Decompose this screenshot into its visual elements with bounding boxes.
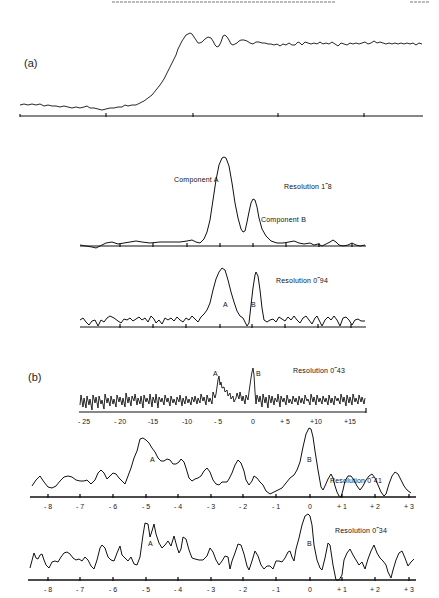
tick-label: - 7 xyxy=(76,503,84,510)
tick-label: - 7 xyxy=(76,586,84,593)
panel-res-0-43-axis xyxy=(79,408,366,413)
peak-b-label: B xyxy=(251,301,256,308)
tick-label: - 1 xyxy=(272,503,280,510)
panel-res-0-43-curve xyxy=(80,368,365,410)
panel-res-0-41-axis xyxy=(30,494,416,498)
peak-a-label: A xyxy=(223,301,228,308)
tick-label: - 2 xyxy=(239,503,247,510)
panel-a-curve xyxy=(20,33,422,110)
peak-a-label: A xyxy=(150,456,155,463)
panel-a-axis xyxy=(20,113,423,117)
peak-b-label: B xyxy=(307,540,312,547)
tick-label: - 1 xyxy=(272,586,280,593)
tick-label: +15 xyxy=(344,418,356,425)
component-a-label: Component A xyxy=(174,176,219,183)
resolution-0-94-label: Resolution 0˝94 xyxy=(276,277,328,284)
panel-b-label: (b) xyxy=(28,371,41,383)
tick-label: + 2 xyxy=(370,586,380,593)
peak-b-label: B xyxy=(307,456,312,463)
tick-label: - 4 xyxy=(174,586,182,593)
tick-label: 0 xyxy=(251,418,255,425)
resolution-0-34-label: Resolution 0˝34 xyxy=(335,527,387,534)
tick-label: + 3 xyxy=(404,503,414,510)
peak-a-label: A xyxy=(213,370,218,377)
tick-label: - 4 xyxy=(174,503,182,510)
panel-a-label: (a) xyxy=(24,57,37,69)
panel-res-0-34-curve xyxy=(30,514,414,580)
tick-label: + 2 xyxy=(370,503,380,510)
resolution-0-43-label: Resolution 0˝43 xyxy=(293,367,345,374)
panel-res-1-8-curve xyxy=(80,157,365,248)
resolution-0-41-label: Resolution 0˝41 xyxy=(330,477,382,484)
tick-label: -15 xyxy=(148,418,158,425)
tick-label: + 5 xyxy=(280,418,290,425)
tick-label: + 3 xyxy=(404,586,414,593)
tick-label: 0 xyxy=(308,586,312,593)
panel-res-0-34-axis xyxy=(28,577,416,581)
tick-label: 0 xyxy=(308,503,312,510)
tick-label: - 6 xyxy=(109,503,117,510)
tick-label: -10 xyxy=(182,418,192,425)
peak-a-label: A xyxy=(148,540,153,547)
tick-label: + 1 xyxy=(337,503,347,510)
peak-b-label: B xyxy=(256,370,261,377)
tick-label: - 5 xyxy=(142,503,150,510)
resolution-1-8-label: Resolution 1˝8 xyxy=(284,183,332,190)
tick-label: - 2 xyxy=(239,586,247,593)
component-b-label: Component B xyxy=(261,216,306,223)
tick-label: - 25 xyxy=(78,418,90,425)
tick-label: - 3 xyxy=(207,503,215,510)
tick-label: - 8 xyxy=(44,503,52,510)
tick-label: - 5 xyxy=(214,418,222,425)
tick-label: - 8 xyxy=(44,586,52,593)
tick-label: - 20 xyxy=(114,418,126,425)
panel-res-0-41-curve xyxy=(32,428,411,497)
tick-label: + 1 xyxy=(337,586,347,593)
tick-label: - 5 xyxy=(142,586,150,593)
tick-label: +10 xyxy=(310,418,322,425)
tick-label: - 3 xyxy=(207,586,215,593)
tick-label: - 6 xyxy=(109,586,117,593)
